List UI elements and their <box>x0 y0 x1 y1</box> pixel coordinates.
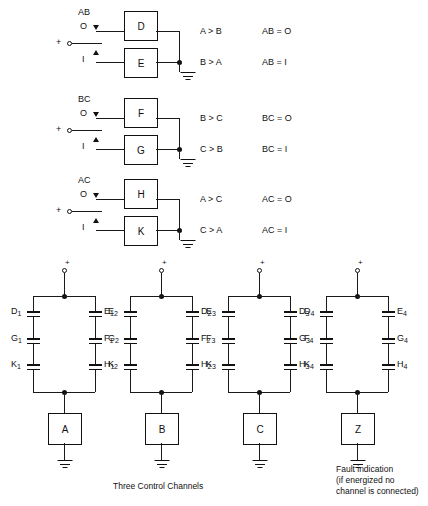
rail-left-seg3-channel-b <box>130 370 131 392</box>
contact-E1[interactable] <box>89 311 102 317</box>
relay-box-D[interactable]: D <box>124 11 158 41</box>
contact-H3[interactable] <box>284 364 297 370</box>
rail-left-seg3-channel-z <box>326 370 327 392</box>
contact-F3[interactable] <box>222 338 235 344</box>
wire-top-in-AB <box>96 31 124 32</box>
wire-bus-AC <box>179 199 180 231</box>
supply-wire-channel-z <box>357 273 358 296</box>
wire-bottom-in-BC <box>96 149 124 150</box>
arrow-down-BC <box>93 112 99 117</box>
rail-right-seg0-channel-b <box>192 296 193 311</box>
contact-K2[interactable] <box>124 364 137 370</box>
contact-label-D4: D4 <box>304 307 314 317</box>
contact-K1[interactable] <box>27 364 40 370</box>
output-relay-box-label-B: B <box>159 424 166 435</box>
rail-left-seg2-channel-z <box>326 344 327 364</box>
contact-label-K4: K4 <box>304 360 314 370</box>
contact-E3[interactable] <box>222 311 235 317</box>
rail-right-seg0-channel-a <box>95 296 96 311</box>
contact-K4[interactable] <box>320 364 333 370</box>
condition-bottom-AC: AC = I <box>262 226 287 235</box>
supply-plus-label-channel-b: + <box>162 259 167 267</box>
arrow-up-AC <box>93 218 99 223</box>
top-rail-channel-c <box>228 296 290 297</box>
contact-E2[interactable] <box>124 311 137 317</box>
rail-right-seg1-channel-z <box>388 317 389 338</box>
contact-D4[interactable] <box>320 311 333 317</box>
wire-bus-AB <box>179 31 180 63</box>
rail-left-seg3-channel-a <box>33 370 34 392</box>
comparator-state-top-AC: O <box>80 190 87 199</box>
relay-box-F[interactable]: F <box>124 98 158 128</box>
supply-wire-channel-a <box>64 273 65 296</box>
rail-right-seg3-channel-a <box>95 370 96 392</box>
contact-F4[interactable] <box>320 338 333 344</box>
contact-G2[interactable] <box>124 338 137 344</box>
rail-left-seg1-channel-z <box>326 317 327 338</box>
output-relay-box-Z[interactable]: Z <box>341 413 375 445</box>
switch-blade-AB[interactable] <box>72 43 102 44</box>
supply-plus-label-channel-c: + <box>260 259 265 267</box>
wire-bottom-in-AB <box>96 62 124 63</box>
contact-F2[interactable] <box>186 338 199 344</box>
output-relay-box-label-A: A <box>62 424 69 435</box>
wire-top-out-AC <box>156 199 180 200</box>
output-wire-channel-a <box>64 392 65 413</box>
rail-left-seg3-channel-c <box>228 370 229 392</box>
contact-D1[interactable] <box>27 311 40 317</box>
relay-box-H[interactable]: H <box>124 179 158 209</box>
wire-top-out-AB <box>156 31 180 32</box>
rail-left-seg1-channel-c <box>228 317 229 338</box>
contact-D2[interactable] <box>186 311 199 317</box>
rail-left-seg2-channel-c <box>228 344 229 364</box>
comparator-state-bottom-AC: I <box>82 223 85 232</box>
switch-blade-AC[interactable] <box>72 211 102 212</box>
wire-top-out-BC <box>156 118 180 119</box>
output-relay-box-label-C: C <box>256 424 263 435</box>
contact-H4[interactable] <box>382 364 395 370</box>
output-bottom-BC: C > B <box>200 145 223 154</box>
rail-right-seg3-channel-c <box>290 370 291 392</box>
output-bottom-AB: B > A <box>200 58 222 67</box>
output-relay-box-A[interactable]: A <box>48 413 82 445</box>
comparator-state-bottom-BC: I <box>82 142 85 151</box>
contact-D3[interactable] <box>284 311 297 317</box>
contact-H2[interactable] <box>186 364 199 370</box>
arrow-down-AB <box>93 25 99 30</box>
output-wire-channel-c <box>259 392 260 413</box>
output-relay-box-C[interactable]: C <box>243 413 277 445</box>
comparator-plus-AB: + <box>56 38 61 47</box>
contact-label-H4: H4 <box>397 360 407 370</box>
rail-right-seg2-channel-c <box>290 344 291 364</box>
ground-wire-channel-z <box>357 443 358 460</box>
wire-gnd-BC <box>179 149 180 159</box>
relay-box-K[interactable]: K <box>124 216 158 246</box>
condition-top-AB: AB = O <box>262 27 291 36</box>
contact-G3[interactable] <box>284 338 297 344</box>
rail-left-seg2-channel-b <box>130 344 131 364</box>
wire-top-in-AC <box>96 199 124 200</box>
switch-blade-BC[interactable] <box>72 130 102 131</box>
contact-G1[interactable] <box>27 338 40 344</box>
contact-G4[interactable] <box>382 338 395 344</box>
contact-H1[interactable] <box>89 364 102 370</box>
relay-box-G[interactable]: G <box>124 135 158 165</box>
rail-right-seg1-channel-b <box>192 317 193 338</box>
output-relay-box-label-Z: Z <box>355 424 361 435</box>
output-wire-channel-z <box>357 392 358 413</box>
output-relay-box-B[interactable]: B <box>145 413 179 445</box>
comparator-pair-label-AC: AC <box>78 176 91 185</box>
contact-label-E4: E4 <box>397 307 407 317</box>
contact-label-G1: G1 <box>11 334 22 344</box>
contact-K3[interactable] <box>222 364 235 370</box>
rail-right-seg1-channel-c <box>290 317 291 338</box>
rail-right-seg0-channel-c <box>290 296 291 311</box>
comparator-pair-label-AB: AB <box>78 8 90 17</box>
output-top-AB: A > B <box>200 27 222 36</box>
contact-E4[interactable] <box>382 311 395 317</box>
contact-F1[interactable] <box>89 338 102 344</box>
relay-box-E[interactable]: E <box>124 48 158 78</box>
supply-plus-label-channel-z: + <box>358 259 363 267</box>
condition-top-BC: BC = O <box>262 114 292 123</box>
output-bottom-AC: C > A <box>200 226 222 235</box>
